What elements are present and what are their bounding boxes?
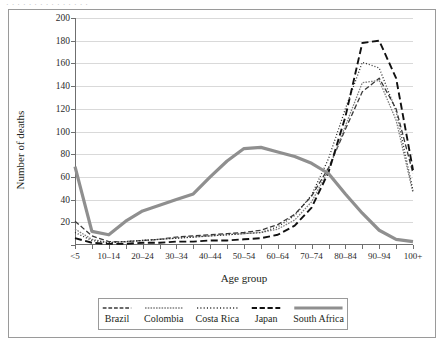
x-tick-mark: [92, 245, 93, 249]
chart-legend: BrazilColombiaCosta RicaJapanSouth Afric…: [98, 298, 348, 330]
legend-swatch-icon: [196, 303, 240, 312]
x-tick-mark: [312, 245, 313, 249]
legend-item-south-africa[interactable]: South Africa: [287, 303, 350, 325]
legend-swatch-icon: [251, 303, 281, 312]
x-tick-label: 50–54: [233, 251, 256, 261]
x-tick-mark: [176, 245, 177, 249]
x-tick-mark: [261, 245, 262, 249]
x-tick-mark: [109, 245, 110, 249]
x-tick-label: 10–14: [98, 251, 121, 261]
series-line-costa-rica: [75, 62, 413, 242]
y-tick-label: 200: [56, 13, 70, 23]
series-lines: [75, 18, 413, 245]
legend-item-japan[interactable]: Japan: [245, 303, 287, 325]
x-axis-title: Age group: [221, 272, 268, 284]
y-tick-label: 20: [61, 217, 71, 227]
x-tick-mark: [210, 245, 211, 249]
x-tick-mark: [362, 245, 363, 249]
series-line-brazil: [75, 78, 413, 241]
plot-area: 20406080100120140160180200 <510–1420–243…: [75, 18, 413, 245]
y-tick-label: 180: [56, 36, 70, 46]
x-tick-mark: [193, 245, 194, 249]
x-tick-mark: [126, 245, 127, 249]
legend-item-brazil[interactable]: Brazil: [96, 303, 138, 325]
series-line-south-africa: [75, 147, 413, 241]
x-tick-label: 100+: [404, 251, 423, 261]
x-tick-label: 20–24: [131, 251, 154, 261]
x-tick-mark: [345, 245, 346, 249]
legend-label: Brazil: [105, 313, 129, 325]
y-tick-label: 80: [61, 149, 71, 159]
x-tick-mark: [143, 245, 144, 249]
y-tick-label: 120: [56, 104, 70, 114]
legend-swatch-icon: [144, 303, 183, 312]
legend-item-colombia[interactable]: Colombia: [138, 303, 189, 325]
y-tick-label: 140: [56, 81, 70, 91]
x-tick-mark: [75, 245, 76, 249]
x-tick-mark: [379, 245, 380, 249]
x-tick-label: <5: [70, 251, 80, 261]
legend-item-costa-rica[interactable]: Costa Rica: [190, 303, 246, 325]
x-tick-mark: [278, 245, 279, 249]
x-tick-mark: [396, 245, 397, 249]
legend-label: Colombia: [144, 313, 183, 325]
y-tick-label: 60: [61, 172, 71, 182]
figure-container: · · · · · · · · · · · · · · · Number of …: [0, 0, 446, 345]
y-tick-label: 100: [56, 127, 70, 137]
x-tick-mark: [227, 245, 228, 249]
x-tick-label: 30–34: [165, 251, 188, 261]
plot-wrapper: Number of deaths Age group 2040608010012…: [0, 0, 446, 300]
legend-swatch-icon: [102, 303, 132, 312]
x-tick-mark: [413, 245, 414, 249]
y-tick-label: 160: [56, 58, 70, 68]
x-tick-mark: [244, 245, 245, 249]
series-line-colombia: [75, 80, 413, 242]
legend-label: Costa Rica: [196, 313, 240, 325]
x-tick-label: 90–94: [368, 251, 391, 261]
x-tick-mark: [160, 245, 161, 249]
x-tick-mark: [329, 245, 330, 249]
legend-swatch-icon: [293, 303, 344, 312]
y-tick-label: 40: [61, 195, 71, 205]
y-axis-title: Number of deaths: [14, 111, 26, 190]
legend-label: Japan: [255, 313, 278, 325]
x-tick-label: 40–44: [199, 251, 222, 261]
x-tick-label: 80–84: [334, 251, 357, 261]
legend-label: South Africa: [293, 313, 344, 325]
x-tick-mark: [295, 245, 296, 249]
x-tick-label: 70–74: [300, 251, 323, 261]
x-tick-label: 60–64: [267, 251, 290, 261]
